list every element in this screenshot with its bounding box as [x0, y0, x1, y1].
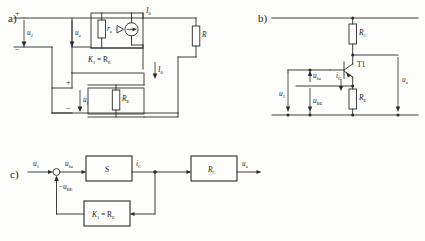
c-u1-label: u1: [33, 159, 40, 169]
u1-label: u1: [27, 28, 33, 38]
c-S-input-arrow-head: [82, 170, 87, 174]
c-ube-label: ube: [65, 159, 73, 169]
re-label: re: [107, 24, 112, 34]
RE-label: RE: [121, 94, 130, 104]
collector-slant: [344, 64, 353, 70]
c-output-arrow-head: [257, 170, 262, 174]
c-ua-label: ua: [242, 159, 248, 169]
ua-arrow-head: [396, 107, 400, 113]
current-source-arrow-head: [133, 27, 137, 31]
c-ic-label: iC: [136, 159, 141, 169]
rc-supply-node: [351, 17, 354, 20]
part-c-caption: c): [10, 168, 19, 181]
rc-block: [191, 156, 237, 181]
figure-canvas: a) + − u1 ue re I0: [0, 0, 425, 241]
part-a-group: a) + − u1 ue re I0: [8, 6, 207, 117]
RC-label: RC: [358, 28, 367, 38]
i0-mid-label: I0: [157, 65, 163, 75]
minus-sign-input: −: [15, 45, 20, 54]
transconductance-triangle-icon: [117, 26, 124, 34]
part-c-group: c) u1 ube S iC RC ua K1 = RE: [10, 156, 261, 226]
c-feedback-block-arrow-head: [130, 212, 135, 216]
plus-sign-input: +: [15, 9, 20, 18]
c-feedback-node-arrow-head: [54, 176, 58, 182]
R-load-resistor: [192, 26, 200, 46]
ic-arrow-head: [339, 86, 343, 91]
RE-resistor: [112, 90, 120, 110]
ube-label: ube: [313, 71, 321, 81]
ic-label: iC: [336, 71, 341, 81]
u1-ground-node: [287, 114, 290, 117]
u1-arrow-head-b: [286, 107, 290, 113]
c-input-arrow-head: [48, 170, 53, 174]
u1-arrow-head: [22, 42, 27, 48]
uf-arrow-head: [78, 107, 83, 113]
re-ground-node: [351, 114, 354, 117]
R-load-label: R: [201, 30, 207, 39]
part-b-group: b) RC T1 RE iC: [258, 12, 418, 117]
c-neg-uBE-label: −uBE: [58, 182, 73, 192]
part-b-caption: b): [258, 12, 268, 25]
RE-resistor-b: [349, 89, 357, 109]
ua-label: ua: [402, 75, 408, 85]
c-RC-input-arrow-head: [187, 170, 192, 174]
minus-sign-uf: −: [66, 104, 71, 113]
uBE-label: uBE: [313, 96, 323, 106]
c-S-label: S: [105, 165, 109, 174]
k1-equals-re-label: K1 = RE: [87, 55, 111, 65]
RC-resistor: [349, 24, 357, 44]
i0-top-label: I0: [145, 6, 151, 16]
summing-node-icon: [53, 169, 60, 176]
u1-label-b: u1: [279, 89, 286, 99]
emitter-arrow-head: [346, 72, 351, 77]
re-resistor: [98, 20, 106, 38]
plus-sign-uf: +: [66, 78, 71, 87]
i0-mid-arrow-head: [153, 74, 158, 80]
ua-ground-node: [397, 114, 400, 117]
ube-arrow-head: [308, 71, 312, 77]
c-k1-re-label: K1 = RE: [91, 210, 115, 220]
RE-label-b: RE: [358, 93, 367, 103]
T1-label: T1: [357, 60, 366, 69]
ue-label: ue: [75, 28, 81, 38]
uBE-arrow-head: [308, 107, 312, 113]
